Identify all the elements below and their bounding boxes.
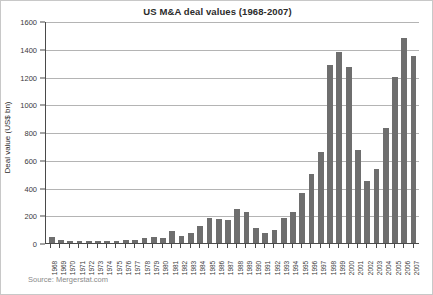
bar-slot bbox=[270, 22, 279, 243]
x-tick-mark bbox=[301, 244, 302, 248]
y-tick-label: 200 bbox=[24, 212, 37, 221]
bar-slot bbox=[140, 22, 149, 243]
x-label-slot: 1984 bbox=[195, 249, 204, 271]
x-label-slot: 1998 bbox=[325, 249, 334, 271]
x-label-slot: 1983 bbox=[185, 249, 194, 271]
x-tick-mark bbox=[143, 244, 144, 248]
y-tick-label: 1000 bbox=[20, 101, 37, 110]
x-tick-mark bbox=[403, 244, 404, 248]
x-tick-mark bbox=[152, 244, 153, 248]
bar-slot bbox=[381, 22, 390, 243]
x-label-slot: 2002 bbox=[362, 249, 371, 271]
bar bbox=[309, 174, 315, 243]
x-tick-mark bbox=[366, 244, 367, 248]
bar-slot bbox=[307, 22, 316, 243]
bar-slot bbox=[112, 22, 121, 243]
bar-slot bbox=[93, 22, 102, 243]
bar-slot bbox=[390, 22, 399, 243]
bar bbox=[86, 241, 92, 243]
x-label-slot: 2004 bbox=[381, 249, 390, 271]
bar bbox=[290, 212, 296, 243]
bar-slot bbox=[288, 22, 297, 243]
x-tick-mark bbox=[115, 244, 116, 248]
bar bbox=[58, 240, 64, 243]
x-label-slot: 1971 bbox=[74, 249, 83, 271]
x-tick-mark bbox=[125, 244, 126, 248]
bar bbox=[327, 65, 333, 243]
bar bbox=[169, 231, 175, 243]
x-tick-mark bbox=[273, 244, 274, 248]
bar bbox=[355, 150, 361, 243]
x-tick-mark bbox=[87, 244, 88, 248]
plot-area bbox=[45, 22, 419, 244]
bar-slot bbox=[149, 22, 158, 243]
bar bbox=[188, 233, 194, 243]
bar bbox=[374, 169, 380, 243]
bar-slot bbox=[279, 22, 288, 243]
bar-slot bbox=[251, 22, 260, 243]
bar bbox=[197, 226, 203, 243]
x-tick-mark bbox=[320, 244, 321, 248]
x-tick-mark bbox=[236, 244, 237, 248]
x-label-slot: 1999 bbox=[334, 249, 343, 271]
x-label-slot: 1970 bbox=[65, 249, 74, 271]
x-label-slot: 2000 bbox=[344, 249, 353, 271]
x-label-slot: 1968 bbox=[46, 249, 55, 271]
bar bbox=[225, 220, 231, 243]
bar-slot bbox=[84, 22, 93, 243]
x-label-slot: 1992 bbox=[269, 249, 278, 271]
x-tick-mark bbox=[69, 244, 70, 248]
bar bbox=[262, 233, 268, 243]
x-label-slot: 1987 bbox=[223, 249, 232, 271]
bar bbox=[142, 238, 148, 243]
bar bbox=[383, 128, 389, 243]
bar bbox=[346, 67, 352, 243]
bar bbox=[234, 209, 240, 243]
x-label-slot: 1973 bbox=[92, 249, 101, 271]
bar bbox=[95, 241, 101, 243]
bar bbox=[318, 152, 324, 243]
bar bbox=[281, 218, 287, 243]
x-tick-mark bbox=[245, 244, 246, 248]
bar bbox=[123, 240, 129, 243]
bar bbox=[207, 218, 213, 243]
bar-slot bbox=[56, 22, 65, 243]
bar bbox=[151, 237, 157, 243]
bar-slot bbox=[196, 22, 205, 243]
x-tick-mark bbox=[162, 244, 163, 248]
bar-slot bbox=[325, 22, 334, 243]
bar bbox=[49, 237, 55, 243]
bar-slot bbox=[121, 22, 130, 243]
x-tick-mark bbox=[385, 244, 386, 248]
bar-slot bbox=[223, 22, 232, 243]
x-tick-mark bbox=[180, 244, 181, 248]
bar-slot bbox=[214, 22, 223, 243]
x-label-slot: 1996 bbox=[306, 249, 315, 271]
x-label-slot: 1980 bbox=[158, 249, 167, 271]
x-tick-mark bbox=[338, 244, 339, 248]
x-label-slot: 1991 bbox=[260, 249, 269, 271]
x-tick-mark bbox=[217, 244, 218, 248]
x-tick-mark bbox=[357, 244, 358, 248]
bar-slot bbox=[316, 22, 325, 243]
bar-slot bbox=[103, 22, 112, 243]
y-tick-label: 400 bbox=[24, 184, 37, 193]
x-label-slot: 1974 bbox=[102, 249, 111, 271]
bar bbox=[179, 236, 185, 243]
x-tick-mark bbox=[329, 244, 330, 248]
bar-slot bbox=[131, 22, 140, 243]
bar bbox=[244, 212, 250, 243]
bar bbox=[364, 181, 370, 243]
x-label-slot: 1977 bbox=[130, 249, 139, 271]
bar-slot bbox=[168, 22, 177, 243]
bar-slot bbox=[75, 22, 84, 243]
x-tick-mark bbox=[227, 244, 228, 248]
y-tick-label: 0 bbox=[33, 240, 37, 249]
x-tick-mark bbox=[376, 244, 377, 248]
x-label-slot: 1994 bbox=[288, 249, 297, 271]
x-tick-mark bbox=[134, 244, 135, 248]
bar bbox=[411, 56, 417, 243]
x-tick-mark bbox=[255, 244, 256, 248]
bar-slot bbox=[260, 22, 269, 243]
bar-slot bbox=[66, 22, 75, 243]
